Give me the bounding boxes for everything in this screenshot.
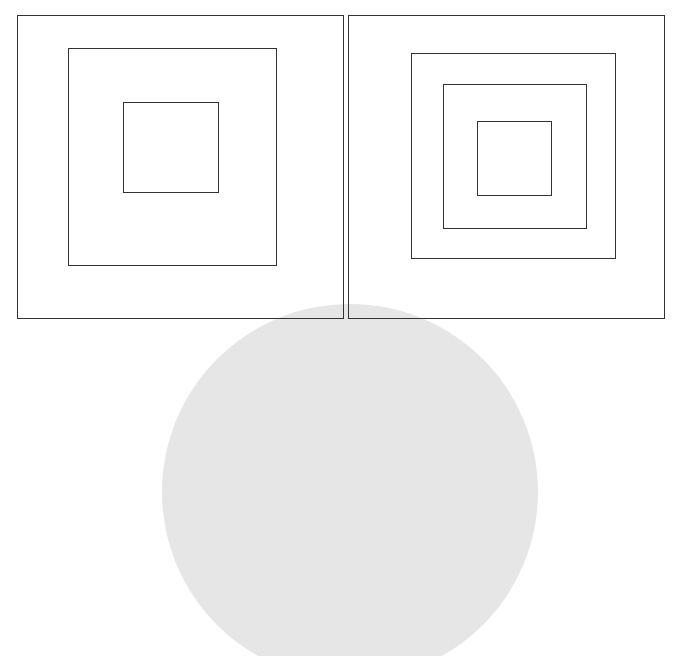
right-inner-square <box>477 121 552 196</box>
grey-circle-overlay <box>162 304 538 656</box>
left-inner-square <box>123 102 219 193</box>
